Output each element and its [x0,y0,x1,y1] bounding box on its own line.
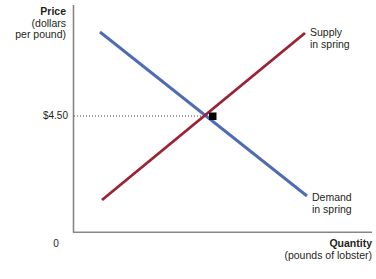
y-axis-tick-label-price: $4.50 [0,110,68,122]
supply-curve-label-line-1: Supply [310,26,350,38]
y-axis-title-main: Price [0,6,66,18]
supply-demand-chart: Price (dollars per pound) $4.50 0 Supply… [0,0,376,279]
y-axis-title: Price (dollars per pound) [0,6,66,41]
supply-curve-label-line-2: in spring [310,38,350,50]
demand-curve-label: Demand in spring [312,191,352,215]
demand-curve-label-line-1: Demand [312,191,352,203]
supply-curve-label: Supply in spring [310,26,350,50]
x-axis-title-sub: (pounds of lobster) [206,250,372,262]
demand-curve-label-line-2: in spring [312,203,352,215]
x-axis-title: Quantity (pounds of lobster) [206,238,372,261]
y-axis-title-sub-2: per pound) [0,29,66,41]
equilibrium-point-marker [209,113,217,121]
origin-label: 0 [48,238,64,250]
x-axis-title-main: Quantity [206,238,372,250]
